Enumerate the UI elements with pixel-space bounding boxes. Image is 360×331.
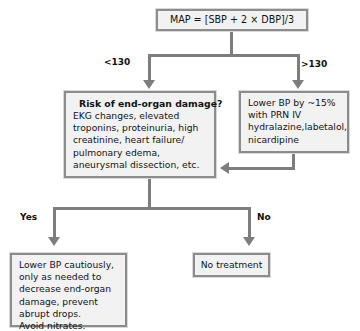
node-lower-bp-body: Lower BP by ~15% with PRN IV hydralazine… xyxy=(248,97,341,146)
flowchart-canvas: <130 >130 Yes No MAP = [SBP + 2 × DBP]/3… xyxy=(0,0,360,331)
edge-label-less-than-130: <130 xyxy=(104,57,130,67)
node-map-formula: MAP = [SBP + 2 × DBP]/3 xyxy=(156,9,308,31)
connector-lowerbp-to-risk xyxy=(229,167,295,170)
node-risk-of-end-organ-damage: Risk of end-organ damage? EKG changes, e… xyxy=(64,91,216,178)
edge-label-yes: Yes xyxy=(20,212,37,222)
connector-map-stem xyxy=(230,31,233,56)
arrowhead-down-icon xyxy=(143,80,155,89)
connector-risk-stem xyxy=(148,178,151,210)
edge-label-greater-than-130: >130 xyxy=(301,59,327,69)
arrowhead-down-icon xyxy=(243,237,255,246)
connector-drop-yes xyxy=(53,207,56,238)
connector-top-split-bar xyxy=(148,54,300,57)
node-map-formula-text: MAP = [SBP + 2 × DBP]/3 xyxy=(170,14,294,26)
connector-bottom-split-bar xyxy=(53,207,251,210)
node-risk-title: Risk of end-organ damage? xyxy=(73,97,208,110)
arrowhead-down-icon xyxy=(48,237,60,246)
arrowhead-down-icon xyxy=(292,80,304,89)
node-cautious-body: Lower BP cautiously, only as needed to d… xyxy=(19,259,119,331)
connector-drop-no xyxy=(248,207,251,238)
node-lower-bp-cautiously: Lower BP cautiously, only as needed to d… xyxy=(10,253,127,327)
connector-drop-left xyxy=(148,54,151,81)
connector-drop-right xyxy=(297,54,300,81)
edge-label-no: No xyxy=(257,212,271,222)
node-risk-body: EKG changes, elevated troponins, protein… xyxy=(73,110,208,171)
node-no-treatment: No treatment xyxy=(193,253,270,277)
arrowhead-left-icon xyxy=(220,162,229,174)
node-lower-bp-15-percent: Lower BP by ~15% with PRN IV hydralazine… xyxy=(239,91,349,153)
node-no-treatment-text: No treatment xyxy=(201,259,263,271)
